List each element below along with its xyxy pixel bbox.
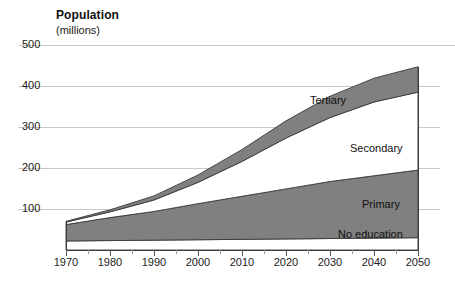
area-label-primary: Primary (362, 198, 400, 210)
y-tick-400: 400 (22, 79, 56, 91)
y-tick-100: 100 (22, 202, 56, 214)
x-tick-2050: 2050 (396, 256, 440, 268)
area-label-no-education: No education (338, 228, 403, 240)
area-label-tertiary: Tertiary (310, 94, 346, 106)
x-tick-1980: 1980 (88, 256, 132, 268)
y-tick-500: 500 (22, 38, 56, 50)
x-tick-2020: 2020 (264, 256, 308, 268)
area-label-secondary: Secondary (350, 142, 403, 154)
x-tick-2030: 2030 (308, 256, 352, 268)
x-tick-1970: 1970 (44, 256, 88, 268)
x-tick-2010: 2010 (220, 256, 264, 268)
chart-figure: Population (millions) 500 400 300 200 10… (0, 0, 455, 281)
x-tick-2040: 2040 (352, 256, 396, 268)
y-tick-200: 200 (22, 161, 56, 173)
y-tick-300: 300 (22, 120, 56, 132)
x-tick-1990: 1990 (132, 256, 176, 268)
x-tick-2000: 2000 (176, 256, 220, 268)
